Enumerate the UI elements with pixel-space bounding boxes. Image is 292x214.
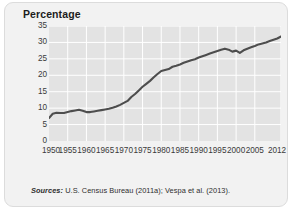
chart-plot-wrapper: 05101520253035 1950195519601965197019751…: [25, 24, 281, 163]
data-series-line: [49, 37, 281, 118]
plot-area: [49, 26, 281, 141]
vertical-gridlines: [68, 26, 281, 141]
y-axis-tick-label: 30: [25, 38, 47, 46]
x-axis-tick-label: 1975: [133, 147, 151, 155]
x-axis-tick-label: 1965: [96, 147, 114, 155]
chart-title: Percentage: [23, 8, 81, 20]
y-axis-tick-label: 10: [25, 104, 47, 112]
x-axis-tick-label: 1955: [59, 147, 77, 155]
y-axis-tick-label: 15: [25, 88, 47, 96]
line-chart-svg: [49, 26, 281, 141]
x-axis-tick-label: 1960: [77, 147, 95, 155]
x-axis-tick-label: 2000: [227, 147, 245, 155]
x-axis-tick-labels: 1950195519601965197019751980198519901995…: [25, 147, 281, 157]
horizontal-gridlines: [49, 26, 281, 125]
x-axis-tick-label: 1995: [208, 147, 226, 155]
figure-card: Percentage 05101520253035 19501955196019…: [4, 2, 288, 207]
y-axis-tick-label: 0: [25, 137, 47, 145]
sources-label: Sources:: [31, 186, 63, 195]
x-axis-tick-label: 1970: [115, 147, 133, 155]
x-axis-tick-label: 2012: [268, 147, 286, 155]
sources-text: U.S. Census Bureau (2011a); Vespa et al.…: [63, 186, 230, 195]
x-axis-tick-label: 1980: [152, 147, 170, 155]
x-axis-tick-label: 1985: [171, 147, 189, 155]
y-axis-tick-label: 5: [25, 121, 47, 129]
x-axis-tick-label: 1950: [42, 147, 60, 155]
x-axis-tick-label: 1990: [190, 147, 208, 155]
y-axis-tick-label: 20: [25, 71, 47, 79]
x-axis-tick-label: 2005: [246, 147, 264, 155]
y-axis-tick-label: 25: [25, 55, 47, 63]
sources-note: Sources: U.S. Census Bureau (2011a); Ves…: [31, 186, 230, 195]
y-axis-tick-label: 35: [25, 22, 47, 30]
